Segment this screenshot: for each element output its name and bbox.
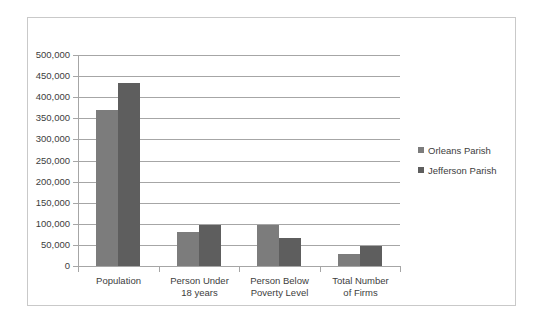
bar-group [96,55,140,266]
x-axis-label-line: of Firms [320,287,401,299]
y-axis-tick-label: 450,000 [36,71,70,81]
x-axis-tick [159,267,160,272]
bar-group [177,55,221,266]
y-axis-tick-label: 250,000 [36,156,70,166]
legend-swatch-icon [418,167,424,173]
x-axis-category-label: Population [78,275,159,287]
y-axis-tick [73,139,78,140]
y-axis-tick-label: 150,000 [36,198,70,208]
x-axis-tick [78,267,79,272]
bar-1 [360,246,382,266]
y-axis-tick-label: 100,000 [36,219,70,229]
x-axis-label-line: 18 years [159,287,240,299]
x-axis-category-label: Person BelowPoverty Level [239,275,320,299]
y-axis-tick-label: 500,000 [36,50,70,60]
bar-0 [177,232,199,266]
y-axis-tick [73,245,78,246]
y-axis-tick [73,224,78,225]
legend-swatch-icon [418,147,424,153]
bar-1 [279,238,301,266]
x-axis-tick [239,267,240,272]
y-axis-tick-label: 400,000 [36,92,70,102]
bar-0 [96,110,118,266]
x-axis-label-line: Person Below [239,275,320,287]
bar-group [257,55,301,266]
y-axis-tick [73,76,78,77]
legend-item-0[interactable]: Orleans Parish [418,140,496,160]
y-axis-labels: 500,000450,000400,000350,000300,000250,0… [28,18,70,305]
y-axis-tick-label: 200,000 [36,177,70,187]
chart-legend: Orleans ParishJefferson Parish [418,140,496,180]
y-axis-tick-label: 350,000 [36,113,70,123]
y-axis-tick [73,118,78,119]
x-axis-label-line: Poverty Level [239,287,320,299]
bar-1 [199,225,221,266]
x-axis-label-line: Person Under [159,275,240,287]
x-axis-category-label: Person Under18 years [159,275,240,299]
legend-item-1[interactable]: Jefferson Parish [418,160,496,180]
y-axis-tick-label: 50,000 [41,240,70,250]
y-axis-tick [73,182,78,183]
plot-area [78,55,400,266]
x-axis-label-line: Population [78,275,159,287]
bar-0 [257,225,279,266]
bar-group [338,55,382,266]
x-axis-category-label: Total Numberof Firms [320,275,401,299]
bar-0 [338,254,360,266]
legend-label: Jefferson Parish [428,165,496,176]
y-axis-tick-label: 0 [65,261,70,271]
x-axis-tick [400,267,401,272]
y-axis-tick [73,161,78,162]
legend-label: Orleans Parish [428,145,491,156]
y-axis-tick-label: 300,000 [36,134,70,144]
y-axis-tick [73,97,78,98]
x-axis-label-line: Total Number [320,275,401,287]
y-axis-tick [73,55,78,56]
chart-frame: 500,000450,000400,000350,000300,000250,0… [27,17,516,306]
x-axis-tick [320,267,321,272]
bar-1 [118,83,140,266]
y-axis-tick [73,203,78,204]
